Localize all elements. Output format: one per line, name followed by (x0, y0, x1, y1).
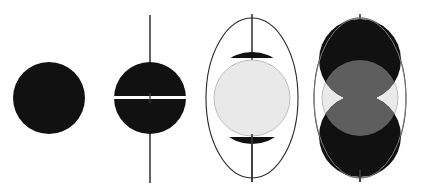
central-light-disc (214, 60, 290, 136)
panel-1-solid-disc (13, 62, 85, 134)
solid-black-disc (13, 62, 85, 134)
figure-canvas: Four-stage circle and ellipse constructi… (0, 0, 422, 194)
panel-4-overlapping-discs (314, 14, 406, 182)
